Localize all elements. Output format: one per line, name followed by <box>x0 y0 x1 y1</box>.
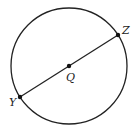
circle-diagram: Y Q Z <box>0 0 136 137</box>
point-q-center <box>67 64 71 68</box>
label-z: Z <box>121 24 130 37</box>
label-q: Q <box>66 71 75 84</box>
label-y: Y <box>9 96 18 109</box>
point-z <box>116 33 120 37</box>
point-y <box>18 95 22 99</box>
